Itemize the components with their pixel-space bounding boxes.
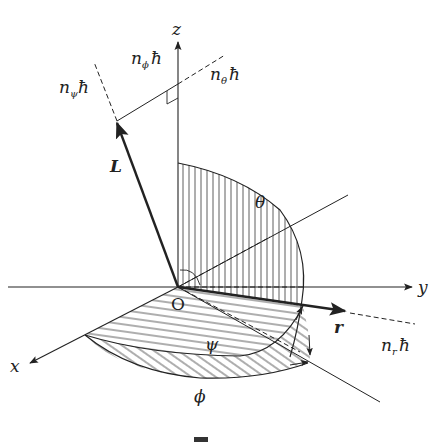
svg-text:n: n xyxy=(381,335,392,355)
n-theta-hbar-label: n θ ħ xyxy=(210,64,240,86)
svg-text:n: n xyxy=(131,48,142,68)
theta-plane-region xyxy=(178,163,303,306)
right-angle-marker xyxy=(167,91,178,104)
y-axis-label: y xyxy=(417,277,428,297)
diagram-canvas: z y x O L r θ ψ ϕ n ϕ ħ n θ ħ n ψ ħ n r … xyxy=(0,0,446,442)
L-vector-label: L xyxy=(109,156,122,176)
svg-text:ψ: ψ xyxy=(70,88,78,99)
n-phi-hbar-label: n ϕ ħ xyxy=(131,48,162,70)
svg-text:n: n xyxy=(210,64,221,84)
n-r-hbar-label: n r ħ xyxy=(381,335,410,357)
svg-text:ϕ: ϕ xyxy=(142,59,149,70)
svg-text:ħ: ħ xyxy=(151,48,162,68)
n-psi-dashed xyxy=(94,62,117,121)
phi-label: ϕ xyxy=(194,386,206,406)
theta-label: θ xyxy=(255,192,265,212)
origin-label: O xyxy=(171,294,185,314)
svg-text:n: n xyxy=(59,77,70,97)
r-vector-label: r xyxy=(334,317,344,337)
z-axis-label: z xyxy=(171,19,182,39)
x-axis-label: x xyxy=(10,356,20,376)
psi-label: ψ xyxy=(205,334,219,354)
svg-text:ħ: ħ xyxy=(78,77,89,97)
svg-text:ħ: ħ xyxy=(399,335,410,355)
n-r-dashed xyxy=(350,313,415,324)
svg-text:r: r xyxy=(392,346,398,357)
caption-fragment xyxy=(194,437,208,442)
svg-text:θ: θ xyxy=(221,75,227,86)
svg-text:ħ: ħ xyxy=(229,64,240,84)
n-psi-hbar-label: n ψ ħ xyxy=(59,77,89,99)
L-vector xyxy=(117,123,178,287)
